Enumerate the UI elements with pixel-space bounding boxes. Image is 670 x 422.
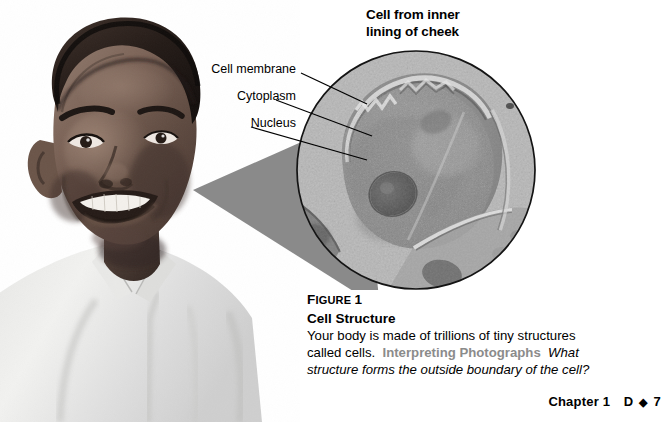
caption-question-part1: What [548,345,579,360]
callout-label-cell-membrane: Cell membrane [96,63,296,76]
figure-page: Cell from inner lining of cheek Cell mem… [0,0,670,422]
figure-word-rest: IGURE [315,294,351,306]
figure-number-line: FIGURE 1 [307,291,657,309]
figure-body: Your body is made of trillions of tiny s… [307,328,657,378]
figure-number: 1 [355,292,363,307]
diamond-icon: ◆ [639,396,647,408]
page-footer: Chapter 1 D◆7 [548,394,661,409]
micrograph-heading: Cell from inner lining of cheek [366,7,566,41]
callout-label-nucleus: Nucleus [96,117,296,130]
figure-caption: FIGURE 1 Cell Structure Your body is mad… [307,291,657,378]
micrograph-heading-line2: lining of cheek [366,24,566,41]
figure-title: Cell Structure [307,310,657,328]
caption-lead-in: Interpreting Photographs [383,345,541,360]
micrograph-heading-line1: Cell from inner [366,7,566,24]
caption-question-part2: structure forms the outside boundary of … [307,362,589,377]
footer-chapter: Chapter 1 [548,394,610,409]
callout-label-cytoplasm-text: Cytoplasm [237,89,296,103]
callout-label-cell-membrane-text: Cell membrane [211,62,296,76]
footer-unit: D [624,394,634,409]
footer-page-number: 7 [654,394,661,409]
caption-body-line2-start: called cells. [307,345,375,360]
callout-label-nucleus-text: Nucleus [251,116,296,130]
cheek-cell-micrograph [296,50,536,290]
caption-body-line1: Your body is made of trillions of tiny s… [307,328,576,343]
callout-label-cytoplasm: Cytoplasm [96,90,296,103]
